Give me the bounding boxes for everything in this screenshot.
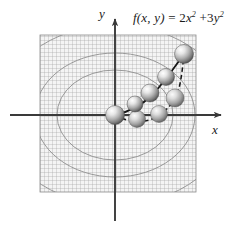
formula-term2-exp: 2 xyxy=(220,10,224,19)
figure-canvas xyxy=(0,0,241,232)
function-formula: f(x, y) = 2x2 +3y2 xyxy=(133,10,224,26)
gradient-descent-figure: f(x, y) = 2x2 +3y2 y x xyxy=(0,0,241,232)
sphere-lower-2 xyxy=(151,106,168,123)
formula-term1-coef: 2 xyxy=(179,10,186,25)
y-axis-label: y xyxy=(99,6,105,22)
sphere-upper-3 xyxy=(158,69,175,86)
sphere-start xyxy=(175,45,194,64)
sphere-upper-2 xyxy=(141,84,159,102)
x-axis-label: x xyxy=(212,122,218,138)
sphere-upper-1 xyxy=(127,96,143,112)
formula-args: (x, y) xyxy=(137,10,165,25)
formula-term2-coef: 3 xyxy=(207,10,214,25)
formula-equals: = xyxy=(168,10,176,25)
formula-term1-exp: 2 xyxy=(192,10,196,19)
sphere-lower-1 xyxy=(129,111,146,128)
formula-plus: + xyxy=(200,10,208,25)
sphere-lower-3 xyxy=(166,89,184,107)
sphere-minimum xyxy=(106,106,125,125)
